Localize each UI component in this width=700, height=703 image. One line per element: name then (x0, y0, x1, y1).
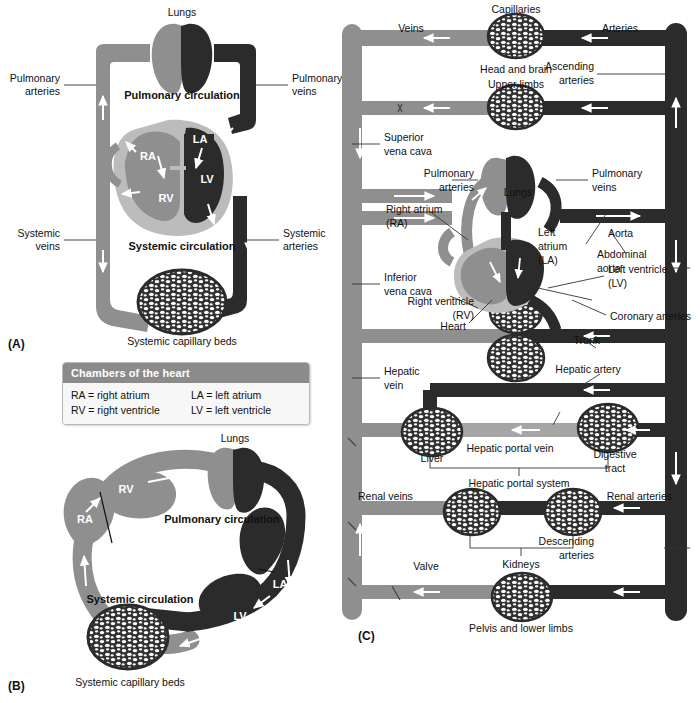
legend-la: LA = left atrium (191, 388, 261, 403)
label-systemic-veins: Systemic (17, 227, 60, 239)
label-systemic-arteries-2: arteries (283, 240, 318, 252)
label-lv-b: LV (233, 610, 247, 622)
label-systemic-circulation-b: Systemic circulation (87, 593, 194, 605)
label-pulmonary-veins: Pulmonary (292, 72, 343, 84)
bracket-hepatic-portal (430, 455, 608, 468)
legend-ra: RA = right atrium (71, 388, 191, 403)
legend-title: Chambers of the heart (63, 363, 309, 383)
label-pulmonary-arteries-c: Pulmonary (424, 167, 475, 179)
figure-canvas: Pulmonary arteries Pulmonary veins Syste… (0, 0, 700, 703)
label-head-and-brain: Head and brain (480, 63, 552, 75)
label-pulmonary-arteries-2: arteries (25, 85, 60, 97)
label-superior-vena-cava: Superior (384, 131, 424, 143)
label-hepatic-artery: Hepatic artery (555, 363, 621, 375)
label-right-ventricle-c: Right ventricle (407, 295, 474, 307)
label-ascending-arteries-2: arteries (559, 74, 594, 86)
lungs-shape-b (208, 448, 265, 513)
label-ascending-arteries: Ascending (545, 60, 594, 72)
label-lv-a: LV (200, 173, 214, 185)
label-coronary-arteries: Coronary arteries (610, 310, 691, 322)
label-superior-vena-cava-2: vena cava (384, 145, 432, 157)
circulatory-system-figure: Pulmonary arteries Pulmonary veins Syste… (0, 0, 700, 703)
label-systemic-capillary-beds-b: Systemic capillary beds (75, 676, 185, 688)
label-rv-a: RV (158, 192, 174, 204)
label-ra-b: RA (77, 513, 93, 525)
label-left-ventricle-c2: (LV) (608, 277, 627, 289)
label-descending-arteries: Descending (539, 535, 595, 547)
label-systemic-veins-2: veins (35, 240, 60, 252)
label-la-a: LA (193, 133, 208, 145)
legend-row: RA = right atrium LA = left atrium (71, 388, 301, 403)
label-pulmonary-veins-c: Pulmonary (592, 167, 643, 179)
label-liver: Liver (421, 452, 444, 464)
label-digestive-tract: Digestive (593, 448, 636, 460)
label-descending-arteries-2: arteries (559, 549, 594, 561)
label-lungs-c: Lungs (504, 186, 533, 198)
label-capillaries-c: Capillaries (491, 3, 540, 15)
label-pelvis-and-lower-limbs: Pelvis and lower limbs (469, 622, 573, 634)
panel-a: Pulmonary arteries Pulmonary veins Syste… (8, 6, 343, 351)
label-hepatic-portal-system: Hepatic portal system (469, 477, 570, 489)
label-hepatic-vein-2: vein (384, 379, 403, 391)
legend-rv: RV = right ventricle (71, 403, 191, 418)
label-pulmonary-circulation-a: Pulmonary circulation (124, 89, 240, 101)
label-kidneys: Kidneys (502, 558, 539, 570)
label-aorta: Aorta (608, 227, 633, 239)
label-lungs-b: Lungs (221, 432, 250, 444)
label-left-atrium-c2: atrium (538, 240, 567, 252)
lv-shape-b (199, 574, 262, 621)
label-arteries-c: Arteries (602, 22, 638, 34)
legend-body: RA = right atrium LA = left atrium RV = … (63, 383, 309, 424)
panel-b: Lungs Pulmonary circulation Systemic cir… (8, 432, 296, 693)
label-renal-arteries: Renal arteries (607, 490, 672, 502)
label-veins-c: Veins (398, 22, 424, 34)
label-abdominal-aorta: Abdominal (597, 248, 647, 260)
label-pulmonary-arteries: Pulmonary (10, 72, 61, 84)
label-inferior-vena-cava: Inferior (384, 271, 417, 283)
label-lungs-a: Lungs (168, 6, 197, 18)
label-ra-a: RA (140, 150, 156, 162)
chambers-legend: Chambers of the heart RA = right atrium … (62, 362, 310, 425)
lungs-shape-a (152, 24, 213, 94)
label-la-b: LA (273, 578, 288, 590)
label-pulmonary-arteries-c2: arteries (439, 181, 474, 193)
label-heart-c: Heart (440, 320, 466, 332)
label-valve: Valve (413, 560, 439, 572)
panel-c: Veins Capillaries Arteries Head and brai… (348, 3, 691, 643)
label-right-atrium-c: Right atrium (386, 203, 443, 215)
legend-row: RV = right ventricle LV = left ventricle (71, 403, 301, 418)
label-hepatic-vein: Hepatic (384, 365, 420, 377)
panel-tag-a: (A) (8, 337, 25, 351)
label-left-atrium-c3: (LA) (538, 254, 558, 266)
label-left-atrium-c: Left (538, 226, 556, 238)
heart-a (108, 120, 233, 236)
label-pulmonary-circulation-b: Pulmonary circulation (164, 513, 280, 525)
label-systemic-capillary-beds-a: Systemic capillary beds (127, 335, 237, 347)
legend-lv: LV = left ventricle (191, 403, 271, 418)
panel-tag-b: (B) (8, 679, 25, 693)
label-digestive-tract-2: tract (605, 462, 626, 474)
label-right-atrium-c2: (RA) (386, 217, 408, 229)
panel-tag-c: (C) (358, 629, 375, 643)
label-systemic-circulation-a: Systemic circulation (129, 240, 236, 252)
label-trunk: Trunk (574, 334, 601, 346)
label-pulmonary-veins-2: veins (292, 85, 317, 97)
label-systemic-arteries: Systemic (283, 227, 326, 239)
label-rv-b: RV (118, 483, 134, 495)
label-upper-limbs: Upper limbs (488, 78, 544, 90)
label-pulmonary-veins-c2: veins (592, 181, 617, 193)
label-left-ventricle-c: Left ventricle (608, 263, 668, 275)
label-hepatic-portal-vein: Hepatic portal vein (467, 442, 554, 454)
label-renal-veins: Renal veins (358, 490, 413, 502)
